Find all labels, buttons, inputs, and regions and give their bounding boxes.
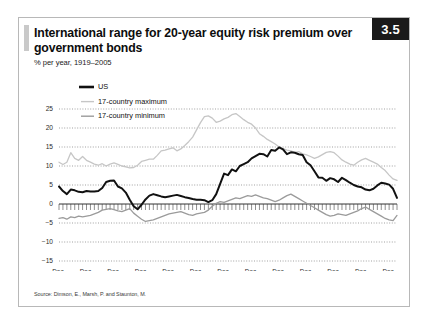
x-axis-tick-label: Dec- [107,268,121,271]
legend-label: 17-country minimum [98,111,165,120]
x-axis-tick-label: Dec- [217,268,231,271]
legend-label: US [98,82,108,91]
y-axis-tick-label: −5 [45,219,53,226]
chart-plot-area: 2520151050−5−10−15 Dec-1919Dec-26Dec-33D… [19,81,411,271]
x-axis-tick-label: Dec- [245,268,259,271]
y-axis-tick-label: 20 [46,124,54,131]
x-axis-tick-label: Dec- [80,268,94,271]
figure-card: 3.5 International range for 20-year equi… [18,17,410,307]
chart-title: International range for 20-year equity r… [34,26,364,55]
y-axis-tick-label: 5 [49,181,53,188]
x-axis-tick-label: Dec- [135,268,149,271]
x-axis-tick-label: Dec- [162,268,176,271]
x-axis-tick-label: Dec- [300,268,314,271]
x-axis-tick-label: Dec- [327,268,341,271]
x-axis-tick-label: Dec- [382,268,396,271]
x-axis-tick-labels: Dec-1919Dec-26Dec-33Dec-40Dec-47Dec-54De… [52,268,397,271]
y-axis-tick-label: −10 [42,238,54,245]
x-axis-tick-label: Dec- [355,268,369,271]
source-note: Source: Dimson, E., Marsh, P. and Staunt… [34,291,146,297]
title-block: International range for 20-year equity r… [34,26,364,67]
chart-svg: 2520151050−5−10−15 Dec-1919Dec-26Dec-33D… [19,81,411,271]
y-axis-tick-label: 25 [46,105,54,112]
legend-label: 17-country maximum [98,97,167,106]
y-axis-tick-labels: 2520151050−5−10−15 [42,105,54,264]
title-accent-bar [24,25,29,51]
x-axis-tick-label: Dec- [52,268,66,271]
chart-subtitle: % per year, 1919–2005 [34,58,364,67]
series-line-us [59,147,397,209]
figure-number-badge: 3.5 [372,18,409,40]
y-axis-tick-label: −15 [42,257,54,264]
chart-legend: US17-country maximum17-country minimum [79,82,167,120]
y-axis-tick-label: 15 [46,143,54,150]
gridlines-group [59,109,397,261]
x-axis-tick-label: Dec- [190,268,204,271]
y-axis-tick-label: 0 [49,200,53,207]
x-axis-tick-label: Dec- [272,268,286,271]
y-axis-tick-label: 10 [46,162,54,169]
